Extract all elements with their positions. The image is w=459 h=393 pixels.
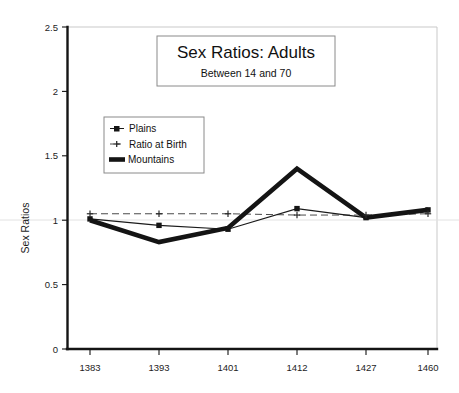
y-axis-title: Sex Ratios xyxy=(19,203,31,254)
sex-ratios-line-chart: 2.5 2 1.5 1 0.5 0 Sex Ratios 1383 1393 1… xyxy=(0,0,459,393)
y-tick-label-2: 2 xyxy=(53,86,58,97)
x-tick-label-1460: 1460 xyxy=(417,362,438,373)
data-point-plains xyxy=(225,227,230,232)
legend-label-plains: Plains xyxy=(129,123,156,134)
x-tick-label-1401: 1401 xyxy=(217,362,238,373)
y-tick-label-1: 1 xyxy=(53,215,58,226)
y-tick-label-0: 0 xyxy=(53,344,58,355)
legend-label-mountains: Mountains xyxy=(128,154,174,165)
data-point-plains xyxy=(87,216,92,221)
title-box: Sex Ratios: Adults Between 14 and 70 xyxy=(157,36,335,86)
data-point-plains xyxy=(156,223,161,228)
chart-subtitle: Between 14 and 70 xyxy=(201,67,292,79)
y-tick-label-1.5: 1.5 xyxy=(45,150,58,161)
legend: Plains Ratio at Birth Mountains xyxy=(104,117,204,173)
x-tick-label-1412: 1412 xyxy=(286,362,307,373)
square-marker-swatch-icon xyxy=(114,126,120,132)
x-tick-label-1383: 1383 xyxy=(79,362,100,373)
y-tick-label-2.5: 2.5 xyxy=(45,22,58,33)
x-tick-label-1427: 1427 xyxy=(355,362,376,373)
chart-container: 2.5 2 1.5 1 0.5 0 Sex Ratios 1383 1393 1… xyxy=(0,0,459,393)
x-tick-label-1393: 1393 xyxy=(148,362,169,373)
y-tick-label-0.5: 0.5 xyxy=(45,279,58,290)
data-point-plains xyxy=(294,206,299,211)
chart-title: Sex Ratios: Adults xyxy=(177,43,315,62)
legend-label-ratio-at-birth: Ratio at Birth xyxy=(129,139,187,150)
